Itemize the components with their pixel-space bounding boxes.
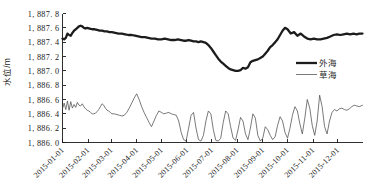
y-axis-tick-labels: 1, 887. 81, 887. 61, 887. 41, 887. 21, 8… — [28, 10, 60, 148]
legend-label-outer-sea: 外海 — [319, 58, 337, 68]
y-tick-label: 1, 887. 6 — [28, 24, 60, 33]
series-line-grass-sea — [63, 94, 363, 141]
series-line-outer-sea — [63, 26, 363, 71]
y-tick-label: 1, 886. 6 — [28, 96, 60, 105]
y-tick-label: 1, 886. 4 — [28, 110, 60, 119]
x-axis-tick-labels: 2015-01-012015-02-012015-03-012015-04-01… — [32, 146, 341, 180]
y-axis-title-group: 水位/m — [2, 58, 12, 85]
y-tick-label: 1, 887. 0 — [28, 67, 60, 76]
y-tick-label: 1, 886. 8 — [28, 81, 60, 90]
y-tick-label: 1, 887. 8 — [28, 10, 60, 19]
y-axis-title: 水位/m — [2, 58, 12, 85]
y-axis-tick-marks — [63, 14, 67, 143]
chart-canvas: 水位/m 1, 887. 81, 887. 61, 887. 41, 887. … — [0, 0, 371, 195]
legend-label-grass-sea: 草海 — [319, 70, 337, 80]
y-tick-label: 1, 887. 2 — [28, 53, 60, 62]
y-tick-label: 1, 887. 4 — [28, 38, 60, 47]
y-tick-label: 1, 886. 2 — [28, 124, 60, 133]
data-series-group — [63, 26, 363, 141]
water-level-chart: 水位/m 1, 887. 81, 887. 61, 887. 41, 887. … — [0, 0, 371, 195]
chart-legend: 外海草海 — [296, 58, 337, 80]
y-tick-label: 1, 886. 0 — [28, 139, 60, 148]
